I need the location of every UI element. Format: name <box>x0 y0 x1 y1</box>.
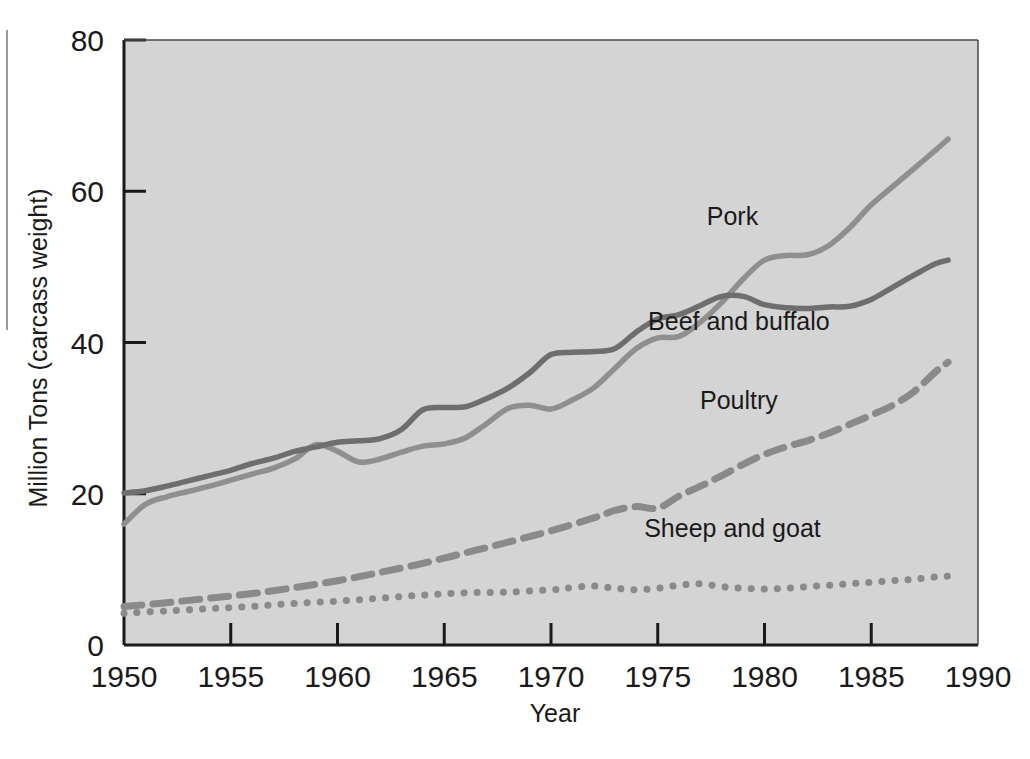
x-tick-labels: 195019551960196519701975198019851990 <box>91 660 1012 693</box>
plot-area-background <box>124 40 978 645</box>
x-tick-label: 1965 <box>411 660 478 693</box>
x-tick-label: 1970 <box>518 660 585 693</box>
x-axis-title: Year <box>530 699 581 727</box>
y-tick-label: 80 <box>71 24 104 57</box>
y-tick-label: 60 <box>71 175 104 208</box>
y-axis-title: Million Tons (carcass weight) <box>24 188 52 507</box>
x-tick-label: 1950 <box>91 660 158 693</box>
series-label: Pork <box>707 202 759 230</box>
series-label: Poultry <box>700 386 778 414</box>
y-tick-label: 40 <box>71 327 104 360</box>
series-label: Sheep and goat <box>644 514 821 542</box>
series-label: Beef and buffalo <box>648 307 830 335</box>
y-tick-label: 0 <box>87 629 104 662</box>
x-tick-label: 1960 <box>304 660 371 693</box>
x-tick-label: 1985 <box>838 660 905 693</box>
x-tick-label: 1990 <box>945 660 1012 693</box>
line-chart: 020406080 195019551960196519701975198019… <box>0 0 1030 759</box>
x-tick-label: 1975 <box>624 660 691 693</box>
x-tick-label: 1955 <box>197 660 264 693</box>
y-tick-label: 20 <box>71 478 104 511</box>
chart-figure: 020406080 195019551960196519701975198019… <box>0 0 1030 759</box>
x-tick-label: 1980 <box>731 660 798 693</box>
